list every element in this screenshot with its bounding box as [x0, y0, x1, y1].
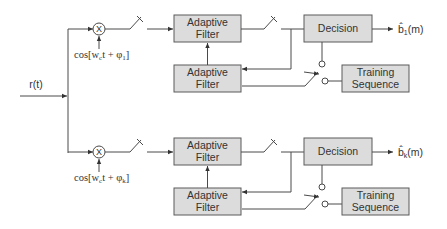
- branch-k: X cos[wct + φk] Adaptive Filter Adaptive…: [68, 138, 423, 215]
- decision-1: Decision: [304, 15, 372, 42]
- svg-text:Filter: Filter: [196, 28, 220, 40]
- svg-text:Adaptive: Adaptive: [187, 139, 228, 151]
- svg-text:Adaptive: Adaptive: [187, 16, 228, 28]
- carrier-label-1: cos[wct + φ1]: [74, 49, 129, 62]
- svg-text:Filter: Filter: [196, 78, 220, 90]
- svg-text:Decision: Decision: [318, 145, 358, 157]
- svg-text:Filter: Filter: [196, 201, 220, 213]
- output-label-1: b̂1(m): [398, 22, 424, 36]
- svg-text:Adaptive: Adaptive: [187, 66, 228, 78]
- branch-1: X cos[wct + φ1] Adaptive Filter Adaptive…: [68, 15, 424, 92]
- svg-text:X: X: [96, 147, 102, 157]
- svg-text:Decision: Decision: [318, 22, 358, 34]
- decision-k: Decision: [304, 138, 372, 165]
- feedback-wire-k: [242, 152, 291, 192]
- adaptive-filter-1a: Adaptive Filter: [174, 15, 241, 42]
- input-signal: r(t): [20, 29, 68, 153]
- switch-contact-icon: [319, 61, 325, 67]
- svg-text:X: X: [96, 24, 102, 34]
- output-label-k: b̂k(m): [398, 145, 423, 159]
- adaptive-filter-kb: Adaptive Filter: [174, 188, 241, 215]
- mixer-1: X: [93, 23, 105, 35]
- carrier-label-k: cos[wct + φk]: [74, 172, 129, 185]
- adaptive-equalizer-diagram: r(t) X cos[wct + φ1] Adaptive Filter Ada…: [0, 0, 447, 229]
- feedback-wire-1: [242, 29, 291, 69]
- svg-text:Sequence: Sequence: [352, 78, 399, 90]
- svg-text:Training: Training: [357, 66, 395, 78]
- svg-text:Filter: Filter: [196, 151, 220, 163]
- svg-text:Sequence: Sequence: [352, 201, 399, 213]
- switch-contact-icon: [319, 184, 325, 190]
- switch-contact-icon: [322, 78, 328, 84]
- switch-contact-icon: [322, 201, 328, 207]
- adaptive-filter-1b: Adaptive Filter: [174, 65, 241, 92]
- training-switch-arm-k: [242, 195, 318, 209]
- mixer-k: X: [93, 146, 105, 158]
- adaptive-filter-ka: Adaptive Filter: [174, 138, 241, 165]
- training-sequence-1: Training Sequence: [342, 65, 409, 92]
- training-switch-arm-1: [242, 72, 318, 86]
- svg-text:Adaptive: Adaptive: [187, 189, 228, 201]
- svg-text:Training: Training: [357, 189, 395, 201]
- training-sequence-k: Training Sequence: [342, 188, 409, 215]
- input-label: r(t): [29, 78, 42, 90]
